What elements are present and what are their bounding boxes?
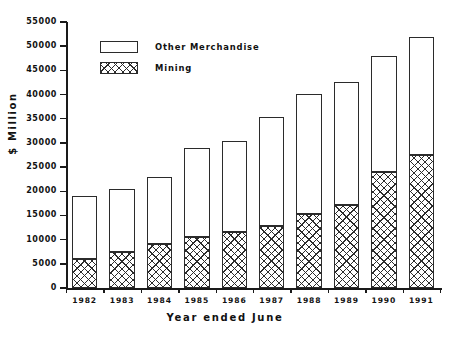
- stacked-bar-chart: 0500010000150002000025000300003500040000…: [0, 0, 450, 339]
- x-tick: [365, 288, 366, 293]
- y-tick-label: 55000: [0, 18, 57, 26]
- x-tick: [403, 288, 404, 293]
- y-axis-title: $ Million: [7, 64, 18, 184]
- bar-segment-other-merchandise: [371, 56, 396, 172]
- y-tick-label: 5000: [0, 260, 57, 268]
- bar-segment-mining: [409, 155, 434, 288]
- y-tick-label: 0: [0, 284, 57, 292]
- x-tick: [328, 288, 329, 293]
- bar-1987: [259, 117, 284, 288]
- y-tick-label: 15000: [0, 211, 57, 219]
- bar-1984: [147, 177, 172, 288]
- x-axis-title: Year ended June: [0, 312, 450, 323]
- bar-segment-other-merchandise: [334, 82, 359, 204]
- x-tick: [440, 288, 441, 293]
- bar-segment-mining: [184, 237, 209, 288]
- x-tick: [253, 288, 254, 293]
- bar-segment-other-merchandise: [109, 189, 134, 252]
- bar-segment-mining: [72, 259, 97, 288]
- bar-segment-mining: [371, 172, 396, 288]
- x-tick: [216, 288, 217, 293]
- x-tick: [178, 288, 179, 293]
- x-tick: [103, 288, 104, 293]
- bar-segment-mining: [222, 232, 247, 288]
- y-tick-label: 50000: [0, 42, 57, 50]
- bar-1991: [409, 37, 434, 288]
- bar-segment-other-merchandise: [147, 177, 172, 244]
- x-tick-label: 1982: [66, 296, 103, 305]
- x-tick-label: 1985: [178, 296, 215, 305]
- x-tick: [290, 288, 291, 293]
- bar-1985: [184, 148, 209, 288]
- bar-segment-mining: [334, 205, 359, 288]
- x-tick-label: 1983: [103, 296, 140, 305]
- bar-segment-other-merchandise: [72, 196, 97, 259]
- x-tick-label: 1987: [253, 296, 290, 305]
- legend-swatch-other-merchandise: [100, 41, 138, 53]
- bar-segment-mining: [296, 214, 321, 288]
- legend-item-other-merchandise: Other Merchandise: [100, 38, 259, 55]
- x-tick-label: 1988: [290, 296, 327, 305]
- legend-label-mining: Mining: [155, 63, 192, 73]
- bar-segment-other-merchandise: [184, 148, 209, 237]
- bar-1990: [371, 56, 396, 288]
- x-tick-label: 1991: [403, 296, 440, 305]
- bar-segment-mining: [259, 226, 284, 288]
- bar-segment-mining: [147, 244, 172, 288]
- legend-label-other-merchandise: Other Merchandise: [155, 42, 259, 52]
- legend-item-mining: Mining: [100, 59, 259, 76]
- chart-legend: Other Merchandise Mining: [100, 38, 259, 80]
- bar-1986: [222, 141, 247, 288]
- y-tick-label: 10000: [0, 236, 57, 244]
- bar-1982: [72, 196, 97, 288]
- x-tick-label: 1984: [141, 296, 178, 305]
- bar-1989: [334, 82, 359, 288]
- bar-1983: [109, 189, 134, 288]
- bar-segment-mining: [109, 252, 134, 288]
- bar-segment-other-merchandise: [409, 37, 434, 155]
- x-tick-label: 1989: [328, 296, 365, 305]
- x-tick-label: 1990: [365, 296, 402, 305]
- x-tick: [66, 288, 67, 293]
- x-tick-label: 1986: [216, 296, 253, 305]
- bar-segment-other-merchandise: [222, 141, 247, 231]
- y-tick-label: 20000: [0, 187, 57, 195]
- bar-segment-other-merchandise: [296, 94, 321, 214]
- x-tick: [141, 288, 142, 293]
- bar-1988: [296, 94, 321, 288]
- bar-segment-other-merchandise: [259, 117, 284, 226]
- legend-swatch-mining: [100, 62, 138, 74]
